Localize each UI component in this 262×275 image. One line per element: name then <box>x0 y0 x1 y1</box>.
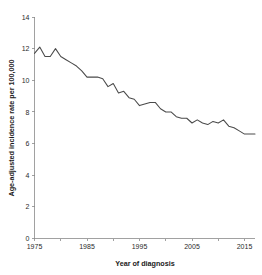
line-chart: 02468101214 19751985199520052015 Year of… <box>0 0 262 275</box>
y-tick-label: 2 <box>26 203 30 210</box>
y-tick-label: 12 <box>22 45 30 52</box>
x-tick-label: 1985 <box>79 243 95 250</box>
y-tick-label: 8 <box>26 109 30 116</box>
y-axis-tick-labels: 02468101214 <box>22 14 30 243</box>
y-tick-label: 6 <box>26 140 30 147</box>
x-axis-title: Year of diagnosis <box>115 259 175 268</box>
x-axis-tick-labels: 19751985199520052015 <box>27 243 253 250</box>
y-tick-label: 0 <box>26 235 30 242</box>
x-tick-label: 2015 <box>237 243 253 250</box>
y-tick-label: 4 <box>26 172 30 179</box>
y-tick-label: 10 <box>22 77 30 84</box>
x-tick-label: 1995 <box>132 243 148 250</box>
y-tick-label: 14 <box>22 14 30 21</box>
x-tick-label: 1975 <box>27 243 43 250</box>
x-tick-label: 2005 <box>184 243 200 250</box>
y-axis-title: Age-adjusted incidence rate per 100,000 <box>7 59 16 196</box>
data-series-line <box>35 47 256 134</box>
chart-figure: 02468101214 19751985199520052015 Year of… <box>0 0 262 275</box>
